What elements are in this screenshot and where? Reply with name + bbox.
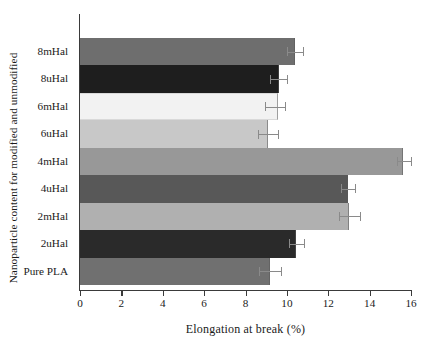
error-bar bbox=[397, 161, 411, 162]
y-tick-label-8uhal: 8uHal bbox=[0, 65, 74, 92]
bar-row bbox=[80, 93, 411, 120]
x-tick-label-16: 16 bbox=[396, 297, 426, 309]
error-bar-cap-high bbox=[285, 102, 286, 111]
error-bar-cap-high bbox=[281, 267, 282, 276]
y-tick-label-2uhal: 2uHal bbox=[0, 230, 74, 257]
x-tick-label-4: 4 bbox=[148, 297, 178, 309]
error-bar-cap-high bbox=[303, 47, 304, 56]
bar-6uhal bbox=[80, 120, 268, 147]
y-axis-line bbox=[79, 14, 80, 291]
y-tick-label-2mhal: 2mHal bbox=[0, 203, 74, 230]
bar-4uhal bbox=[80, 175, 348, 202]
x-tick-0 bbox=[80, 291, 81, 296]
x-tick-10 bbox=[287, 291, 288, 296]
bar-4mhal bbox=[80, 148, 403, 175]
y-tick-label-4mhal: 4mHal bbox=[0, 148, 74, 175]
x-tick-2 bbox=[121, 291, 122, 296]
x-tick-12 bbox=[328, 291, 329, 296]
error-bar-cap-high bbox=[278, 130, 279, 139]
error-bar-cap-high bbox=[304, 239, 305, 248]
y-tick-label-4uhal: 4uHal bbox=[0, 175, 74, 202]
error-bar bbox=[259, 271, 281, 272]
error-bar bbox=[341, 189, 355, 190]
error-bar bbox=[339, 216, 361, 217]
bar-row bbox=[80, 230, 411, 257]
x-tick-16 bbox=[411, 291, 412, 296]
bar-row bbox=[80, 148, 411, 175]
error-bar-cap-low bbox=[259, 267, 260, 276]
x-tick-label-8: 8 bbox=[231, 297, 261, 309]
x-axis-title: Elongation at break (%) bbox=[80, 322, 411, 337]
bar-2uhal bbox=[80, 230, 296, 257]
x-tick-6 bbox=[204, 291, 205, 296]
error-bar-cap-low bbox=[341, 184, 342, 193]
y-tick-label-8mhal: 8mHal bbox=[0, 38, 74, 65]
x-tick-label-12: 12 bbox=[313, 297, 343, 309]
error-bar-cap-low bbox=[270, 75, 271, 84]
x-tick-label-10: 10 bbox=[272, 297, 302, 309]
x-tick-label-2: 2 bbox=[106, 297, 136, 309]
bar-row bbox=[80, 175, 411, 202]
bar-8mhal bbox=[80, 38, 295, 65]
bar-row bbox=[80, 65, 411, 92]
bar-pure-pla bbox=[80, 258, 270, 285]
x-tick-14 bbox=[370, 291, 371, 296]
error-bar bbox=[289, 244, 305, 245]
plot-area bbox=[80, 38, 411, 285]
bar-6mhal bbox=[80, 93, 278, 120]
error-bar-cap-low bbox=[258, 130, 259, 139]
error-bar bbox=[270, 79, 287, 80]
x-tick-label-6: 6 bbox=[189, 297, 219, 309]
x-tick-label-14: 14 bbox=[355, 297, 385, 309]
error-bar-cap-low bbox=[339, 212, 340, 221]
bar-row bbox=[80, 38, 411, 65]
error-bar-cap-low bbox=[397, 157, 398, 166]
x-tick-label-0: 0 bbox=[65, 297, 95, 309]
x-axis-ticks: 0246810121416 bbox=[80, 291, 411, 321]
y-axis-tick-labels: 8mHal8uHal6mHal6uHal4mHal4uHal2mHal2uHal… bbox=[0, 38, 74, 285]
error-bar-cap-high bbox=[355, 184, 356, 193]
error-bar bbox=[265, 107, 285, 108]
x-tick-4 bbox=[163, 291, 164, 296]
y-tick-label-6uhal: 6uHal bbox=[0, 120, 74, 147]
error-bar-cap-low bbox=[265, 102, 266, 111]
bar-chart: Nanoparticle content for modified and un… bbox=[0, 0, 430, 351]
bar-row bbox=[80, 203, 411, 230]
bar-row bbox=[80, 258, 411, 285]
y-tick-label-6mhal: 6mHal bbox=[0, 93, 74, 120]
error-bar-cap-high bbox=[287, 75, 288, 84]
bar-2mhal bbox=[80, 203, 349, 230]
x-tick-8 bbox=[246, 291, 247, 296]
error-bar-cap-high bbox=[411, 157, 412, 166]
bar-8uhal bbox=[80, 65, 279, 92]
bar-row bbox=[80, 120, 411, 147]
error-bar bbox=[287, 52, 304, 53]
y-tick-label-pure-pla: Pure PLA bbox=[0, 258, 74, 285]
error-bar-cap-low bbox=[287, 47, 288, 56]
error-bar bbox=[258, 134, 278, 135]
error-bar-cap-low bbox=[289, 239, 290, 248]
error-bar-cap-high bbox=[360, 212, 361, 221]
